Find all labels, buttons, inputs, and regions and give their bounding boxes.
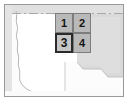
map-bottom-shade bbox=[5, 91, 123, 96]
grid-cell-3-label: 3 bbox=[61, 37, 67, 49]
grid-cell-4[interactable]: 4 bbox=[73, 33, 91, 53]
grid-cell-4-label: 4 bbox=[79, 37, 85, 48]
grid-cell-2[interactable]: 2 bbox=[73, 13, 91, 33]
grid-cell-3[interactable]: 3 bbox=[55, 33, 73, 53]
grid-cell-1-label: 1 bbox=[61, 17, 67, 28]
grid-cell-1[interactable]: 1 bbox=[55, 13, 73, 33]
map-left-margin-shade bbox=[5, 5, 12, 96]
map-frame: 1 2 3 4 bbox=[4, 4, 124, 97]
grid-cell-2-label: 2 bbox=[79, 17, 85, 28]
map-tile-thumbnail: 1 2 3 4 bbox=[0, 0, 128, 101]
tile-grid[interactable]: 1 2 3 4 bbox=[55, 13, 91, 53]
